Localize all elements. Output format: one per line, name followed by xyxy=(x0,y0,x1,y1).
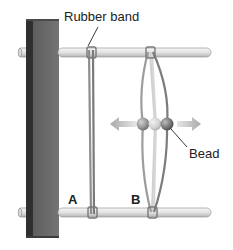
band-a-label: A xyxy=(68,193,77,206)
bead-left-position xyxy=(137,118,150,131)
bead-right-position xyxy=(161,118,174,131)
top-rod xyxy=(58,48,211,57)
arrow-right xyxy=(177,117,201,131)
rubber-band-leader-line xyxy=(88,27,98,46)
arrow-left xyxy=(110,117,136,131)
band-a xyxy=(87,47,97,218)
diagram-canvas: Rubber band Bead A B xyxy=(0,0,233,250)
bead-center-position xyxy=(149,118,162,131)
bottom-rod xyxy=(58,208,211,217)
wooden-post xyxy=(26,19,59,238)
band-b-label: B xyxy=(131,193,140,206)
rubber-band-label: Rubber band xyxy=(64,10,139,23)
rubber-band-bead-diagram xyxy=(0,0,233,250)
band-b xyxy=(141,47,167,218)
bead-leader-line xyxy=(171,129,187,147)
bead-label: Bead xyxy=(189,147,219,160)
